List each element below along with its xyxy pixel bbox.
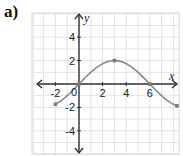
axes xyxy=(37,14,177,153)
x-tick-label: 4 xyxy=(123,87,129,99)
x-tick-label: 2 xyxy=(100,87,106,99)
marked-point xyxy=(113,59,117,63)
y-tick-label: 2 xyxy=(69,55,75,67)
marked-point xyxy=(148,82,152,86)
y-tick-label: 4 xyxy=(69,31,75,43)
marked-point xyxy=(77,82,81,86)
y-tick-label: -4 xyxy=(65,125,75,137)
x-axis-label: x xyxy=(168,69,175,83)
origin-label: 0 xyxy=(71,86,77,98)
curve xyxy=(55,61,177,106)
function-graph: -224642-2-4 x y 0 xyxy=(0,0,183,156)
x-tick-label: -2 xyxy=(51,87,61,99)
x-tick-label: 6 xyxy=(147,87,153,99)
y-axis-label: y xyxy=(83,11,90,25)
marked-point xyxy=(175,104,179,108)
y-tick-label: -2 xyxy=(65,101,75,113)
marked-point xyxy=(54,102,58,106)
